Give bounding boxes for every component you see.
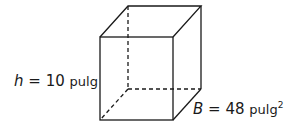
base-label: B = 48 pulg2 (193, 102, 283, 117)
height-label: h = 10 pulg (14, 74, 98, 89)
front-face (100, 37, 173, 120)
top-face (100, 6, 201, 37)
